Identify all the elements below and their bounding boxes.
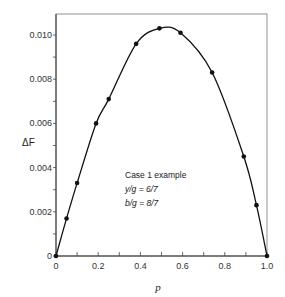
y-axis-title: ΔF xyxy=(22,137,35,148)
data-point xyxy=(134,42,139,47)
data-point xyxy=(106,97,111,102)
chart: 00.0020.0040.0060.0080.010 00.20.40.60.8… xyxy=(0,0,285,297)
x-tick-label: 0.8 xyxy=(219,261,232,271)
y-tick-label: 0.002 xyxy=(29,207,52,217)
x-axis: 00.20.40.60.81.0 xyxy=(53,252,273,271)
data-point xyxy=(210,70,215,75)
annotation-b-over-g: b/g = 8/7 xyxy=(125,198,158,208)
x-tick-label: 0.6 xyxy=(176,261,189,271)
plot-frame xyxy=(56,14,267,256)
data-point xyxy=(54,254,59,259)
x-tick-label: 0 xyxy=(53,261,58,271)
y-tick-label: 0.010 xyxy=(29,30,52,40)
x-tick-label: 0.4 xyxy=(134,261,147,271)
annotation-y-over-g: y/g = 6/7 xyxy=(125,184,158,194)
x-tick-label: 1.0 xyxy=(261,261,274,271)
data-point xyxy=(75,181,80,186)
y-tick-label: 0.006 xyxy=(29,118,52,128)
y-tick-label: 0.004 xyxy=(29,163,52,173)
data-point xyxy=(157,26,162,31)
data-point xyxy=(178,30,183,35)
x-axis-title: p xyxy=(154,281,161,293)
y-tick-label: 0.008 xyxy=(29,74,52,84)
data-point xyxy=(94,121,99,126)
y-tick-label: 0 xyxy=(47,251,52,261)
annotation-title: Case 1 example xyxy=(125,170,186,180)
data-point xyxy=(254,203,259,208)
data-point xyxy=(265,254,270,259)
data-curve xyxy=(56,27,267,256)
data-point xyxy=(241,154,246,159)
x-tick-label: 0.2 xyxy=(92,261,105,271)
data-markers xyxy=(54,26,270,258)
data-point xyxy=(64,216,69,221)
